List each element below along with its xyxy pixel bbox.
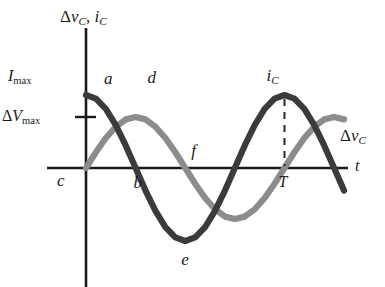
point-label-d: d [148,69,157,86]
y-axis-label: ΔvC, iC [60,8,107,27]
capacitor-waveform-figure: ΔvC, iC t Imax ΔVmax a b c d e f T iC Δv… [0,0,385,287]
point-label-b: b [134,174,143,191]
x-axis-label: t [355,158,359,174]
point-label-c: c [57,172,65,189]
point-label-period-T: T [278,174,287,190]
curve-label-ic: iC [267,67,279,86]
point-label-f: f [191,142,196,159]
point-label-e: e [181,251,189,268]
y-tick-label-delta-vmax: ΔVmax [2,108,40,127]
y-tick-label-imax: Imax [8,68,32,87]
point-label-a: a [104,70,113,87]
curve-label-delta-vc: ΔvC [340,127,366,146]
